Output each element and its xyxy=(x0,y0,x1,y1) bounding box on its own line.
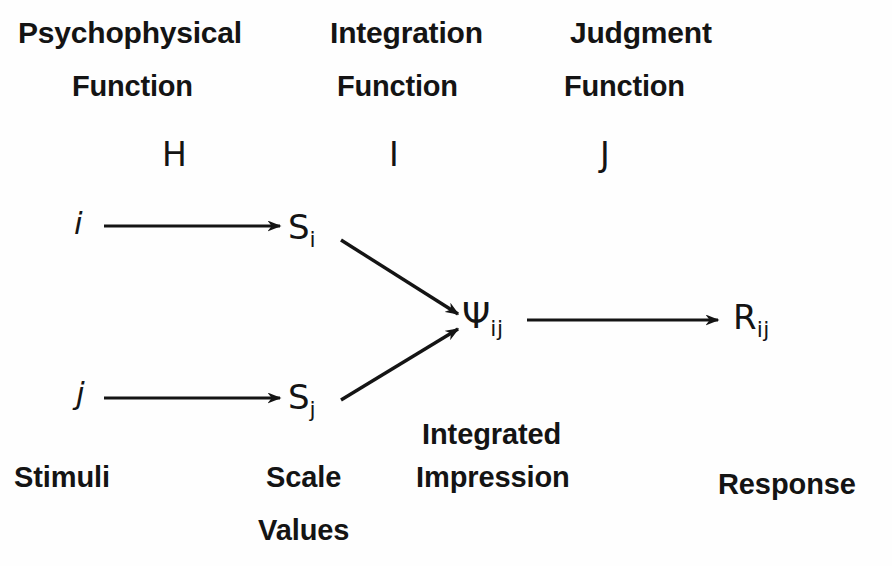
column-header-integration-line2: Function xyxy=(337,72,458,101)
node-scale-value-sj: Sj xyxy=(288,380,316,421)
column-header-judgment-line2: Function xyxy=(564,72,685,101)
node-psi-subscript: ij xyxy=(490,316,503,341)
column-header-judgment-line1: Judgment xyxy=(570,18,712,48)
node-scale-value-sj-symbol: S xyxy=(288,377,310,417)
caption-response: Response xyxy=(718,470,856,499)
operator-letter-j: J xyxy=(600,138,610,171)
node-stimulus-j: j xyxy=(76,378,85,409)
node-scale-value-si-symbol: S xyxy=(288,207,310,247)
node-scale-value-si: Si xyxy=(288,210,316,251)
operator-letter-h: H xyxy=(162,138,187,171)
caption-integrated-impression-line2: Impression xyxy=(416,463,570,492)
node-integrated-impression-psi: Ψij xyxy=(462,298,504,340)
diagram-canvas: Psychophysical Function Integration Func… xyxy=(0,0,892,566)
arrow-sj-to-psi xyxy=(341,329,458,400)
caption-scale-values-line2: Values xyxy=(258,516,349,545)
node-response-symbol: R xyxy=(733,297,757,337)
node-response-r: Rij xyxy=(733,300,770,341)
node-scale-value-sj-subscript: j xyxy=(310,397,317,422)
caption-scale-values-line1: Scale xyxy=(266,463,341,492)
column-header-psychophysical-line1: Psychophysical xyxy=(18,18,242,48)
node-stimulus-i: i xyxy=(74,208,83,239)
column-header-psychophysical-line2: Function xyxy=(72,72,193,101)
arrow-si-to-psi xyxy=(341,240,458,314)
caption-stimuli: Stimuli xyxy=(14,463,110,492)
node-response-subscript: ij xyxy=(757,317,770,342)
operator-letter-i: I xyxy=(389,138,399,171)
node-psi-symbol: Ψ xyxy=(462,295,490,336)
node-scale-value-si-subscript: i xyxy=(310,227,317,252)
caption-integrated-impression-line1: Integrated xyxy=(422,420,561,449)
column-header-integration-line1: Integration xyxy=(330,18,483,48)
